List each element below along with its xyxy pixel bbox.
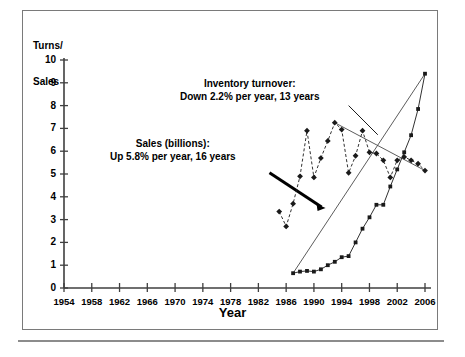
data-point-diamond	[394, 157, 400, 163]
data-point-diamond	[422, 168, 428, 174]
data-point-square	[416, 107, 420, 111]
data-point-diamond	[276, 209, 282, 215]
data-point-square	[361, 227, 365, 231]
chart-figure: Turns/ Sales Year Inventory turnover: Do…	[0, 0, 465, 357]
y-tick-label: 4	[34, 191, 56, 202]
data-point-diamond	[297, 173, 303, 179]
callout-lines	[269, 106, 377, 211]
trend-line	[335, 123, 425, 171]
data-point-square	[333, 260, 337, 264]
y-tick-label: 1	[34, 259, 56, 270]
data-point-square	[423, 72, 427, 76]
y-tick-label: 10	[34, 54, 56, 65]
data-point-square	[326, 263, 330, 267]
data-point-square	[375, 203, 379, 207]
data-point-square	[409, 133, 413, 137]
axes	[60, 58, 431, 292]
data-point-diamond	[290, 201, 296, 207]
data-point-diamond	[332, 120, 338, 126]
data-point-square	[354, 241, 358, 245]
data-point-square	[305, 269, 309, 273]
data-point-diamond	[304, 128, 310, 134]
data-point-square	[368, 215, 372, 219]
data-point-square	[381, 203, 385, 207]
y-tick-label: 6	[34, 145, 56, 156]
data-point-diamond	[353, 153, 359, 159]
y-tick-label: 0	[34, 282, 56, 293]
data-point-diamond	[346, 170, 352, 176]
data-point-diamond	[387, 175, 393, 181]
y-tick-label: 5	[34, 168, 56, 179]
data-point-square	[395, 168, 399, 172]
y-tick-label: 3	[34, 214, 56, 225]
data-point-diamond	[283, 224, 289, 230]
data-point-square	[298, 270, 302, 274]
data-point-square	[319, 267, 323, 271]
data-point-diamond	[360, 128, 366, 134]
y-tick-label: 8	[34, 100, 56, 111]
x-tick-label: 2006	[408, 296, 442, 307]
data-point-square	[402, 150, 406, 154]
data-point-diamond	[318, 155, 324, 161]
y-tick-label: 2	[34, 236, 56, 247]
y-tick-label: 9	[34, 77, 56, 88]
data-point-square	[388, 185, 392, 189]
data-series	[276, 72, 428, 275]
data-point-square	[291, 271, 295, 275]
data-point-square	[312, 270, 316, 274]
data-point-square	[340, 255, 344, 259]
y-tick-label: 7	[34, 122, 56, 133]
data-point-diamond	[325, 138, 331, 144]
data-point-square	[347, 254, 351, 258]
bottom-rule	[18, 340, 444, 342]
data-point-diamond	[311, 175, 317, 181]
